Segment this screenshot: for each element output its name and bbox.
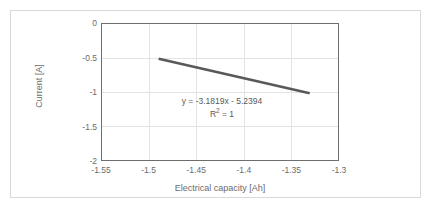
y-axis-title: Current [A]: [34, 41, 44, 131]
chart-frame: Current [A] 0 -0.5 -1 -1.5 -2 y = -3.181…: [10, 10, 421, 198]
y-tick-label: -2: [53, 157, 97, 166]
y-tick-label: 0: [53, 19, 97, 28]
y-tick-label: -0.5: [53, 53, 97, 62]
x-axis-tick-labels: -1.55 -1.5 -1.45 -1.4 -1.35 -1.3: [101, 166, 339, 178]
r-squared-text: R2 = 1: [142, 107, 302, 120]
y-tick-label: -1.5: [53, 122, 97, 131]
trendline-equation-annotation: y = -3.1819x - 5.2394 R2 = 1: [142, 96, 302, 121]
r-squared-suffix: = 1: [220, 109, 234, 119]
trendline-equation-text: y = -3.1819x - 5.2394: [142, 96, 302, 107]
x-tick-label: -1.3: [309, 166, 369, 175]
trendline-segment: [159, 59, 310, 94]
x-axis-title: Electrical capacity [Ah]: [101, 183, 339, 193]
y-axis-tick-labels: 0 -0.5 -1 -1.5 -2: [51, 23, 97, 161]
data-series-line: [102, 24, 338, 160]
y-tick-label: -1: [53, 88, 97, 97]
plot-area: y = -3.1819x - 5.2394 R2 = 1: [101, 23, 339, 161]
